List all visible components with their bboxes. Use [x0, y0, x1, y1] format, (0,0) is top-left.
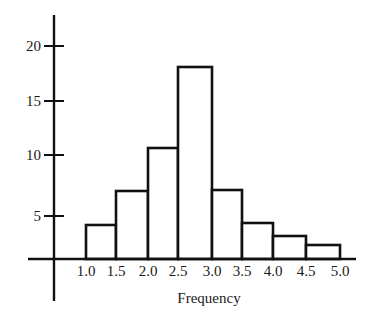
y-tick-label: 20 [26, 38, 41, 54]
y-tick-label: 5 [34, 208, 42, 224]
histogram-chart: 2015105 1.01.52.02.53.03.54.04.55.0 Freq… [0, 0, 373, 330]
histogram-bar [212, 190, 242, 259]
histogram-bar [273, 236, 306, 259]
x-tick-label: 1.5 [107, 263, 126, 279]
y-tick-label: 15 [26, 93, 41, 109]
x-tick-label: 2.5 [169, 263, 188, 279]
histogram-bar [242, 223, 273, 259]
x-axis-title: Frequency [177, 290, 241, 306]
x-tick-label: 3.0 [203, 263, 222, 279]
x-tick-label: 3.5 [233, 263, 252, 279]
histogram-bar [306, 245, 340, 259]
x-tick-label: 2.0 [139, 263, 158, 279]
x-tick-label: 1.0 [77, 263, 96, 279]
histogram-bar [148, 148, 178, 259]
x-tick-labels-group: 1.01.52.02.53.03.54.04.55.0 [77, 263, 350, 279]
x-tick-label: 5.0 [331, 263, 350, 279]
histogram-bar [178, 67, 212, 259]
x-tick-label: 4.0 [264, 263, 283, 279]
histogram-bar [116, 191, 148, 259]
x-tick-label: 4.5 [297, 263, 316, 279]
histogram-bar [86, 225, 116, 259]
y-tick-label: 10 [26, 147, 41, 163]
bars-group [86, 67, 340, 259]
y-ticks-group: 2015105 [26, 38, 64, 224]
